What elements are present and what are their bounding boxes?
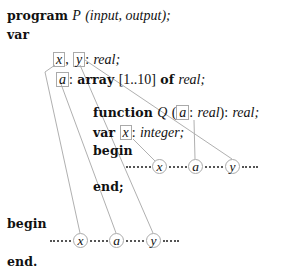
inner-end: end; xyxy=(93,178,124,195)
function-name: Q xyxy=(157,105,167,120)
inner-begin: begin xyxy=(93,142,133,159)
colon: : xyxy=(69,72,73,87)
inner-ref-a-circle: a xyxy=(188,159,203,174)
outer-end: end. xyxy=(7,253,38,270)
param-type: real xyxy=(198,105,220,120)
function-keyword: function xyxy=(93,105,153,120)
link-outer-x-to-main-x xyxy=(45,72,80,233)
close-paren: ): xyxy=(220,105,229,120)
outer-ref-a-circle: a xyxy=(109,233,124,248)
program-header: program P (input, output); xyxy=(7,7,171,24)
return-type: real; xyxy=(232,105,259,120)
outer-ref-y-circle: y xyxy=(146,233,161,248)
inner-var-decl: var x: integer; xyxy=(93,124,184,141)
begin-keyword: begin xyxy=(93,143,133,158)
ellipsis xyxy=(163,240,179,244)
end-keyword: end; xyxy=(93,179,124,194)
link-param-a-to-inner-a xyxy=(194,120,195,159)
outer-begin: begin xyxy=(7,215,47,232)
type-real: real; xyxy=(93,52,120,67)
ellipsis xyxy=(126,240,144,244)
inner-ref-y-circle: y xyxy=(225,159,240,174)
array-range: [1..10] xyxy=(119,72,156,87)
ellipsis xyxy=(126,166,151,170)
ellipsis xyxy=(205,166,223,170)
colon: : xyxy=(189,105,193,120)
function-header: function Q (a: real): real; xyxy=(93,104,259,121)
outer-ref-x-circle: x xyxy=(73,233,88,248)
outer-var-a-box: a xyxy=(56,72,69,87)
begin-keyword: begin xyxy=(7,216,47,231)
type-real: real; xyxy=(178,72,205,87)
outer-decl-a: a: array [1..10] of real; xyxy=(56,71,205,88)
ellipsis xyxy=(90,240,108,244)
outer-var-keyword-line: var xyxy=(7,26,29,43)
program-keyword: program xyxy=(7,8,68,23)
inner-ref-x-circle: x xyxy=(152,159,167,174)
program-params: (input, output); xyxy=(85,8,171,23)
outer-decl-xy: x, y: real; xyxy=(53,51,120,68)
comma: , xyxy=(65,52,69,67)
outer-var-keyword: var xyxy=(7,27,29,42)
colon: : xyxy=(132,125,136,140)
inner-var-keyword: var xyxy=(93,125,115,140)
outer-var-y-box: y xyxy=(73,52,85,67)
type-integer: integer; xyxy=(140,125,184,140)
inner-var-x-box: x xyxy=(120,125,132,140)
program-name: P xyxy=(72,8,81,23)
colon: : xyxy=(85,52,89,67)
array-keyword: array xyxy=(77,72,114,87)
ellipsis xyxy=(169,166,187,170)
param-a-box: a xyxy=(176,105,189,120)
of-keyword: of xyxy=(160,72,174,87)
outer-var-x-box: x xyxy=(53,52,65,67)
link-inner-x-to-inner-x xyxy=(133,139,155,161)
ellipsis xyxy=(50,240,71,244)
ellipsis xyxy=(242,166,258,170)
end-keyword: end. xyxy=(7,254,38,269)
